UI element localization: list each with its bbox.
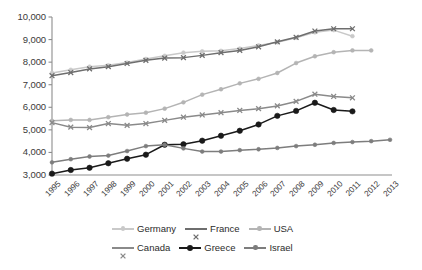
series-marker [200,49,204,53]
legend-row: CanadaGreeceIsrael [112,238,372,257]
y-axis-tick-label: 6,000 [2,102,46,112]
series-marker [256,122,261,127]
series-marker [125,113,129,117]
legend-swatch-circle-marker-icon [179,242,201,253]
legend-item-canada[interactable]: Canada [112,238,170,257]
series-marker [313,54,317,58]
series-marker [257,147,261,151]
series-marker [163,107,167,111]
series-marker [312,100,317,105]
series-marker [124,156,129,161]
series-marker [238,81,242,85]
series-marker [293,108,298,113]
legend-item-germany[interactable]: Germany [112,219,176,238]
series-canada [50,92,355,130]
legend-row: GermanyFranceUSA [112,219,372,238]
legend-swatch-circle-marker-icon [249,223,271,234]
legend-label: USA [274,224,294,234]
series-marker [332,50,336,54]
series-marker [294,144,298,148]
series-greece [49,100,355,176]
series-marker [106,161,111,166]
y-axis-tick-label: 7,000 [2,80,46,90]
legend-item-greece[interactable]: Greece [179,238,235,257]
series-line [52,94,352,127]
series-marker [200,138,205,143]
y-axis-tick-label: 3,000 [2,170,46,180]
series-marker [87,165,92,170]
series-marker [182,100,186,104]
line-chart: 10,0009,0008,0007,0006,0005,0004,0003,00… [0,0,422,270]
series-marker [369,49,373,53]
series-marker [106,154,110,158]
series-marker [275,113,280,118]
series-marker [88,118,92,122]
legend-label: Israel [269,243,292,253]
legend-label: France [210,224,240,234]
series-marker [219,150,223,154]
legend-item-israel[interactable]: Israel [244,238,292,257]
series-marker [351,49,355,53]
series-usa [50,49,373,123]
series-marker [294,61,298,65]
series-marker [351,140,355,144]
series-marker [49,171,54,176]
series-marker [182,51,186,55]
series-marker [332,141,336,145]
series-marker [350,109,355,114]
series-marker [238,148,242,152]
series-marker [182,146,186,150]
series-marker [88,155,92,159]
y-axis-tick-label: 5,000 [2,125,46,135]
y-axis-tick-label: 10,000 [2,12,46,22]
legend-swatch-x-marker-icon [112,242,134,253]
series-marker [369,139,373,143]
legend-item-france[interactable]: France [185,219,240,238]
legend-label: Greece [204,243,235,253]
chart-legend: GermanyFranceUSACanadaGreeceIsrael [112,219,372,257]
series-marker [106,115,110,119]
series-marker [313,143,317,147]
series-marker [144,111,148,115]
series-marker [219,87,223,91]
series-marker [144,144,148,148]
legend-label: Germany [137,224,176,234]
legend-item-usa[interactable]: USA [249,219,294,238]
series-marker [275,146,279,150]
series-marker [388,138,392,142]
series-line [52,50,371,120]
series-marker [275,71,279,75]
legend-swatch-x-marker-icon [185,223,207,234]
series-marker [143,152,148,157]
series-marker [69,157,73,161]
legend-label: Canada [137,243,170,253]
legend-swatch-circle-marker-icon [112,223,134,234]
series-marker [69,118,73,122]
series-marker [351,34,355,38]
series-marker [163,143,167,147]
series-marker [331,107,336,112]
series-marker [50,160,54,164]
y-axis-tick-label: 8,000 [2,57,46,67]
y-axis-tick-label: 9,000 [2,35,46,45]
series-marker [125,149,129,153]
series-marker [257,77,261,81]
series-marker [200,93,204,97]
series-israel [50,138,392,164]
y-axis-tick-label: 4,000 [2,147,46,157]
series-marker [200,150,204,154]
series-marker [218,133,223,138]
series-marker [237,128,242,133]
legend-swatch-circle-marker-icon [244,242,266,253]
series-marker [68,167,73,172]
